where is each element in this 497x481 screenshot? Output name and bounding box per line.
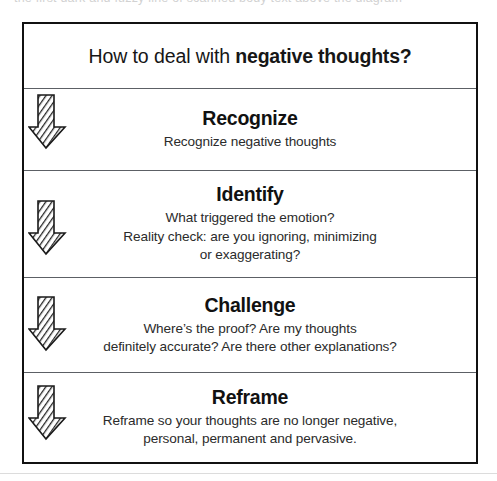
step-body-line: Reality check: are you ignoring, minimiz… bbox=[123, 228, 376, 247]
step-body-line: What triggered the emotion? bbox=[123, 209, 376, 228]
step-heading-reframe: Reframe bbox=[212, 386, 288, 409]
page-title: How to deal with negative thoughts? bbox=[88, 44, 411, 68]
scan-artifact-top: the first dark and fuzzy line of scanned… bbox=[0, 0, 497, 9]
step-body-line: Where’s the proof? Are my thoughts bbox=[103, 320, 397, 339]
infographic-frame: How to deal with negative thoughts? Reco… bbox=[22, 22, 478, 464]
step-body-challenge: Where’s the proof? Are my thoughts defin… bbox=[103, 320, 397, 357]
scan-artifact-top-text: the first dark and fuzzy line of scanned… bbox=[14, 0, 402, 5]
step-body-line: Recognize negative thoughts bbox=[164, 133, 337, 152]
step-heading-identify: Identify bbox=[216, 183, 283, 206]
step-body-line: Reframe so your thoughts are no longer n… bbox=[103, 412, 397, 431]
infographic-title-row: How to deal with negative thoughts? bbox=[24, 24, 476, 88]
step-heading-challenge: Challenge bbox=[205, 294, 296, 317]
step-body-recognize: Recognize negative thoughts bbox=[164, 133, 337, 152]
scan-artifact-bottom-rule bbox=[0, 473, 497, 474]
step-row-reframe: Reframe Reframe so your thoughts are no … bbox=[24, 372, 476, 461]
step-body-line: or exaggerating? bbox=[123, 246, 376, 265]
page-title-emphasis: negative thoughts? bbox=[235, 45, 411, 67]
step-body-line: definitely accurate? Are there other exp… bbox=[103, 338, 397, 357]
step-body-identify: What triggered the emotion? Reality chec… bbox=[123, 209, 376, 265]
step-body-reframe: Reframe so your thoughts are no longer n… bbox=[103, 412, 397, 449]
page-title-prefix: How to deal with bbox=[88, 45, 235, 67]
step-row-identify: Identify What triggered the emotion? Rea… bbox=[24, 170, 476, 277]
step-row-challenge: Challenge Where’s the proof? Are my thou… bbox=[24, 277, 476, 372]
step-heading-recognize: Recognize bbox=[202, 107, 297, 130]
step-row-recognize: Recognize Recognize negative thoughts bbox=[24, 88, 476, 170]
step-body-line: personal, permanent and pervasive. bbox=[103, 430, 397, 449]
